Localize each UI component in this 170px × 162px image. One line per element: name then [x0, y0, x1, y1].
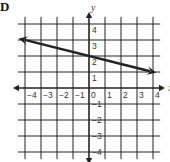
y-tick-label: 4	[92, 25, 97, 35]
x-tick-label: 1	[107, 90, 112, 100]
x-tick-label: −4	[27, 90, 37, 100]
x-tick-label: 2	[123, 90, 128, 100]
x-tick-label: 3	[139, 90, 144, 100]
y-tick-label: −1	[92, 99, 102, 109]
x-tick-label: 4	[155, 90, 160, 100]
x-tick-label: −2	[59, 90, 69, 100]
y-axis-arrow-down-icon	[86, 158, 92, 162]
x-axis-arrow-right-icon	[159, 85, 165, 91]
y-tick-label: −4	[92, 147, 102, 157]
x-tick-label: −3	[43, 90, 53, 100]
x-axis-arrow-left-icon	[13, 85, 19, 91]
x-tick-label: −1	[75, 90, 85, 100]
y-tick-label: 1	[92, 73, 97, 83]
y-axis-label: y	[90, 2, 96, 13]
y-tick-label: 3	[92, 41, 97, 51]
axes	[13, 12, 165, 162]
x-axis-label: x	[168, 82, 170, 93]
y-tick-label: −2	[92, 115, 102, 125]
y-tick-label: −3	[92, 131, 102, 141]
coordinate-plane: xy−4−3−2−1012344321−1−2−3−4	[0, 0, 170, 162]
